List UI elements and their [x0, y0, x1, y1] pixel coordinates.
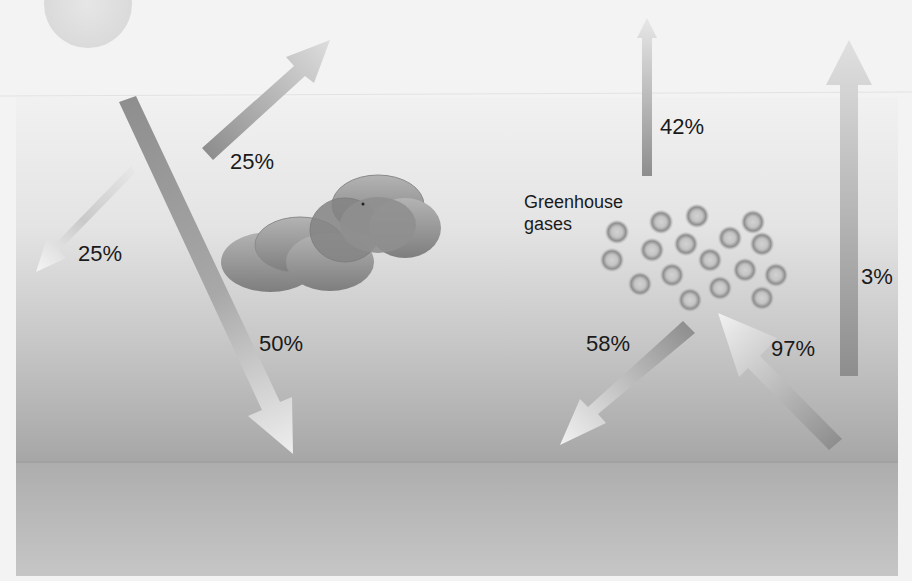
label-back-radiation: 58%: [586, 333, 630, 355]
label-reflected-left: 25%: [78, 243, 122, 265]
greenhouse-gases-label: Greenhouse gases: [524, 191, 623, 235]
greenhouse-gases-label-line1: Greenhouse: [524, 191, 623, 213]
label-reflected-by-atmosphere: 25%: [230, 151, 274, 173]
label-surface-emission-escaping: 3%: [861, 266, 893, 288]
label-escaping-from-gases: 42%: [660, 116, 704, 138]
label-surface-emission-absorbed: 97%: [771, 338, 815, 360]
label-absorbed-by-surface: 50%: [259, 333, 303, 355]
greenhouse-gases-label-line2: gases: [524, 213, 623, 235]
earth-surface: [16, 462, 898, 576]
greenhouse-effect-diagram: [0, 0, 912, 581]
